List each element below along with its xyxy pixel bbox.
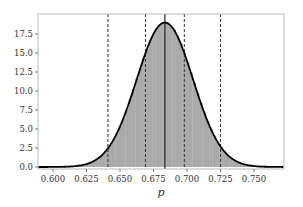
x-tick-label: 0.600 <box>41 174 65 184</box>
x-axis-ticks: 0.6000.6250.6500.6750.7000.7250.750 <box>41 169 266 184</box>
histogram-bar <box>135 78 139 167</box>
y-tick-label: 15.0 <box>14 48 33 58</box>
histogram-bar <box>212 136 216 167</box>
density-chart: 0.6000.6250.6500.6750.7000.7250.750 0.02… <box>0 0 303 207</box>
x-tick-label: 0.650 <box>108 174 132 184</box>
x-tick-label: 0.750 <box>242 174 266 184</box>
histogram-bar <box>115 133 119 167</box>
histogram-bar <box>192 83 196 167</box>
histogram-bar <box>199 103 203 167</box>
histogram-bar <box>196 93 200 167</box>
x-tick-label: 0.700 <box>175 174 199 184</box>
x-tick-label: 0.625 <box>74 174 98 184</box>
histogram-bar <box>145 49 149 167</box>
histogram-bar <box>152 33 156 167</box>
histogram-bar <box>206 121 210 167</box>
y-axis-ticks: 0.02.55.07.510.012.515.017.5 <box>14 29 38 172</box>
y-tick-label: 17.5 <box>14 29 33 39</box>
histogram-bar <box>109 145 113 167</box>
histogram-bar <box>119 126 123 167</box>
histogram-bar <box>149 40 153 167</box>
y-tick-label: 12.5 <box>14 67 33 77</box>
x-axis-label: p <box>157 186 164 199</box>
y-tick-label: 5.0 <box>19 124 33 134</box>
histogram-bar <box>166 23 170 167</box>
histogram-bar <box>139 68 143 167</box>
histogram-bar <box>129 99 133 167</box>
histogram-bar <box>159 24 163 167</box>
histogram-area <box>62 23 270 167</box>
histogram-bar <box>125 109 129 167</box>
histogram-bar <box>156 28 160 167</box>
histogram-bar <box>112 140 116 167</box>
x-tick-label: 0.675 <box>141 174 165 184</box>
y-tick-label: 2.5 <box>19 143 33 153</box>
y-tick-label: 7.5 <box>19 105 33 115</box>
y-tick-label: 10.0 <box>14 86 33 96</box>
y-tick-label: 0.0 <box>19 162 33 172</box>
histogram-bar <box>132 89 136 167</box>
histogram-bar <box>179 44 183 167</box>
histogram-bar <box>189 72 193 167</box>
histogram-bar <box>209 129 213 167</box>
histogram-bar <box>172 30 176 167</box>
histogram-bar <box>186 62 190 167</box>
x-tick-label: 0.725 <box>208 174 232 184</box>
histogram-bar <box>176 36 180 167</box>
histogram-bar <box>122 118 126 167</box>
histogram-bar <box>169 26 173 167</box>
histogram-bar <box>202 112 206 167</box>
